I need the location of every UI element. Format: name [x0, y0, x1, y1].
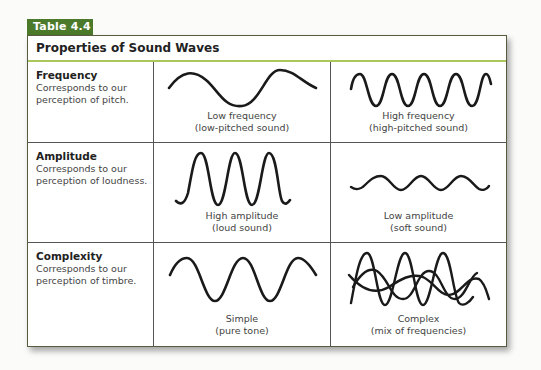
caption-line2: (low-pitched sound)	[154, 122, 330, 134]
sound-waves-table: Properties of Sound Waves Frequency Corr…	[27, 35, 507, 347]
property-name: Complexity	[36, 250, 102, 262]
caption-line1: Simple	[154, 313, 330, 325]
table-row-amplitude: Amplitude Corresponds to our perception …	[28, 143, 506, 243]
table-row-frequency: Frequency Corresponds to our perception …	[28, 62, 506, 143]
property-cell: Complexity Corresponds to our perception…	[28, 243, 154, 346]
caption-line1: Low frequency	[154, 110, 330, 122]
caption-line2: (high-pitched sound)	[331, 122, 506, 134]
low-amplitude-wave-icon	[331, 143, 506, 218]
property-cell: Amplitude Corresponds to our perception …	[28, 143, 154, 242]
property-description: Corresponds to our perception of pitch.	[36, 82, 148, 106]
property-description: Corresponds to our perception of timbre.	[36, 263, 148, 287]
table-label: Table 4.4	[27, 19, 93, 35]
example-cell: Low amplitude (soft sound)	[331, 143, 506, 242]
caption-line1: High amplitude	[154, 210, 330, 222]
property-name: Frequency	[36, 69, 97, 81]
property-description: Corresponds to our perception of loudnes…	[36, 163, 148, 187]
caption-line1: High frequency	[331, 110, 506, 122]
caption-line2: (pure tone)	[154, 325, 330, 337]
property-cell: Frequency Corresponds to our perception …	[28, 62, 154, 142]
example-cell: Complex (mix of frequencies)	[331, 243, 506, 346]
complex-wave-icon	[331, 243, 506, 318]
table-row-complexity: Complexity Corresponds to our perception…	[28, 243, 506, 346]
caption-line2: (soft sound)	[331, 222, 506, 234]
table-title: Properties of Sound Waves	[36, 41, 219, 55]
table-title-row: Properties of Sound Waves	[28, 36, 506, 62]
example-cell: Low frequency (low-pitched sound)	[154, 62, 331, 142]
property-name: Amplitude	[36, 150, 97, 162]
caption-line1: Complex	[331, 313, 506, 325]
example-cell: Simple (pure tone)	[154, 243, 331, 346]
high-amplitude-wave-icon	[154, 143, 331, 218]
caption-line2: (loud sound)	[154, 222, 330, 234]
simple-wave-icon	[154, 243, 331, 318]
caption-line1: Low amplitude	[331, 210, 506, 222]
example-cell: High amplitude (loud sound)	[154, 143, 331, 242]
caption-line2: (mix of frequencies)	[331, 325, 506, 337]
example-cell: High frequency (high-pitched sound)	[331, 62, 506, 142]
